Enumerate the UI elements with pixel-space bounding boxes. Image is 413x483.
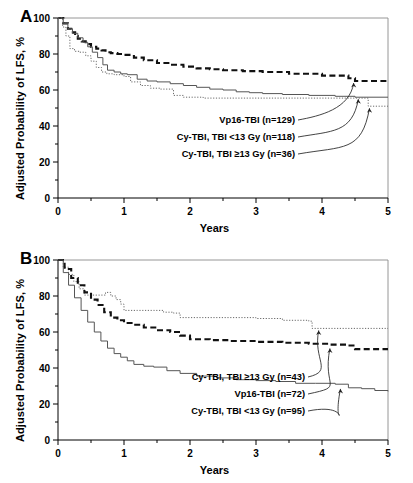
svg-text:20: 20 <box>39 399 51 410</box>
svg-text:1: 1 <box>121 206 127 217</box>
svg-text:0: 0 <box>55 448 61 459</box>
survival-curve <box>58 18 388 97</box>
svg-text:1: 1 <box>121 448 127 459</box>
svg-text:5: 5 <box>385 448 391 459</box>
annotation-leader-line <box>298 108 370 154</box>
svg-text:80: 80 <box>39 49 51 60</box>
survival-curve <box>58 18 388 106</box>
svg-text:2: 2 <box>187 448 193 459</box>
svg-text:80: 80 <box>39 291 51 302</box>
curve-annotation-label: Vp16-TBI (n=72) <box>234 389 305 399</box>
curve-annotation-label: Cy-TBI, TBI ≥13 Gy (n=36) <box>182 149 295 159</box>
annotation-arrowhead <box>356 99 361 104</box>
annotation-leader-line <box>298 83 354 120</box>
svg-text:5: 5 <box>385 206 391 217</box>
svg-text:0: 0 <box>55 206 61 217</box>
panel-b-plot: 020406080100012345Cy-TBI, TBI ≥13 Gy (n=… <box>0 242 413 483</box>
curve-annotation-label: Cy-TBI, TBI <13 Gy (n=118) <box>177 132 295 142</box>
svg-text:4: 4 <box>319 206 325 217</box>
annotation-arrowhead <box>327 348 332 353</box>
annotation-arrowhead <box>316 330 321 335</box>
svg-text:0: 0 <box>44 435 50 446</box>
curve-annotation-label: Cy-TBI, TBI <13 Gy (n=95) <box>191 406 305 416</box>
survival-curve <box>58 18 388 83</box>
panel-a-plot: 020406080100012345Vp16-TBI (n=129)Cy-TBI… <box>0 0 413 241</box>
svg-text:20: 20 <box>39 157 51 168</box>
svg-text:3: 3 <box>253 448 259 459</box>
svg-text:40: 40 <box>39 121 51 132</box>
survival-curves-figure: A Adjusted Probability of LFS, % Years 0… <box>0 0 413 483</box>
curve-annotation-label: Vp16-TBI (n=129) <box>219 115 295 125</box>
annotation-leader-line <box>308 330 321 377</box>
curve-annotation-label: Cy-TBI, TBI ≥13 Gy (n=43) <box>192 372 305 382</box>
svg-text:0: 0 <box>44 193 50 204</box>
svg-text:4: 4 <box>319 448 325 459</box>
svg-text:60: 60 <box>39 327 51 338</box>
svg-text:60: 60 <box>39 85 51 96</box>
panel-a: A Adjusted Probability of LFS, % Years 0… <box>0 0 413 241</box>
svg-text:100: 100 <box>33 13 50 24</box>
annotation-arrowhead <box>351 83 356 88</box>
svg-text:100: 100 <box>33 255 50 266</box>
svg-text:3: 3 <box>253 206 259 217</box>
svg-text:40: 40 <box>39 363 51 374</box>
survival-curve <box>58 260 388 328</box>
annotation-arrowhead <box>367 108 372 113</box>
panel-b: B Adjusted Probability of LFS, % Years 0… <box>0 242 413 483</box>
survival-curve <box>58 260 388 349</box>
svg-text:2: 2 <box>187 206 193 217</box>
annotation-arrowhead <box>338 389 343 394</box>
